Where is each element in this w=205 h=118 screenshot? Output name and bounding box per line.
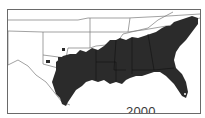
range-map (8, 10, 200, 113)
outlier-patch (46, 60, 50, 63)
outlier-patch (62, 48, 65, 51)
outlier-patch (58, 57, 62, 60)
shaded-range-region (52, 16, 198, 106)
lake-okeechobee (184, 93, 186, 95)
year-label: 2000 (126, 104, 156, 114)
outlier-patch (184, 22, 187, 25)
map-frame: 2000 (7, 9, 201, 114)
